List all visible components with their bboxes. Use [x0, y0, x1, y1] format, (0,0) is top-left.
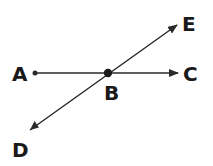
label-e: E — [182, 12, 196, 36]
point-b-dot — [104, 69, 112, 77]
point-a-dot — [33, 71, 38, 76]
arrowhead-d-icon — [30, 121, 39, 130]
label-c: C — [183, 62, 198, 86]
label-a: A — [12, 62, 28, 86]
label-b: B — [104, 81, 119, 105]
geometry-diagram: A B C D E — [0, 0, 213, 166]
label-d: D — [12, 138, 29, 162]
line-de — [30, 25, 177, 130]
